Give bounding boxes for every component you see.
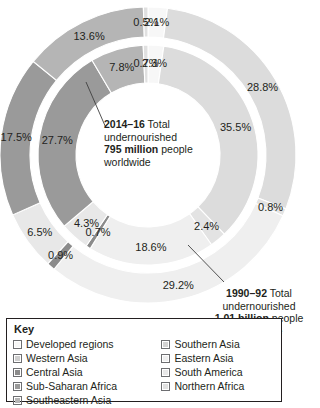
outer-ring-slice-label: 29.2% — [163, 279, 194, 291]
outer-ring-slice-label: 0.8% — [258, 201, 283, 213]
center-period: 2014–16 — [104, 118, 145, 130]
inner-ring-slice-label: 35.5% — [220, 121, 251, 133]
legend-swatch — [161, 354, 170, 363]
legend-item-label: Southern Asia — [174, 339, 239, 350]
legend-item-sub-saharan-africa[interactable]: Sub-Saharan Africa — [13, 380, 157, 393]
legend-swatch — [13, 340, 22, 349]
legend-item-label: Developed regions — [26, 339, 114, 350]
legend-item-label: Sub-Saharan Africa — [26, 381, 117, 392]
center-line2: undernourished — [104, 131, 177, 143]
legend-item-eastern-asia[interactable]: Eastern Asia — [161, 352, 275, 365]
legend-item-south-america[interactable]: South America — [161, 366, 275, 379]
center-line1-rest: Total — [145, 118, 170, 130]
legend-item-label: Northern Africa — [174, 381, 244, 392]
inner-ring-slice-label: 4.3% — [74, 217, 99, 229]
outer-period: 1990–92 — [226, 287, 267, 299]
legend-item-label: Eastern Asia — [174, 353, 233, 364]
outer-ring-slice-label: 6.5% — [27, 226, 52, 238]
legend-item-northern-africa[interactable]: Northern Africa — [161, 380, 275, 393]
outer-line1-rest: Total — [267, 287, 292, 299]
legend-column-right: Southern AsiaEastern AsiaSouth AmericaNo… — [161, 338, 275, 407]
center-annotation: 2014–16 Total undernourished 795 million… — [104, 118, 208, 168]
outer-ring-slice-label: 0.9% — [48, 249, 73, 261]
outer-ring-slice-label: 28.8% — [247, 81, 278, 93]
legend-swatch — [13, 354, 22, 363]
inner-ring-slice-label: 2.4% — [194, 220, 219, 232]
outer-ring-slice-label: 17.5% — [1, 131, 32, 143]
center-line4: worldwide — [104, 156, 151, 168]
legend-item-label: Southeastern Asia — [26, 395, 111, 406]
legend-swatch — [161, 340, 170, 349]
center-line3-rest: people — [158, 143, 192, 155]
legend-item-developed-regions[interactable]: Developed regions — [13, 338, 157, 351]
legend-swatch — [161, 382, 170, 391]
legend-title: Key — [14, 323, 275, 335]
legend-column-left: Developed regionsWestern AsiaCentral Asi… — [13, 338, 157, 407]
inner-ring-slice-label: 27.7% — [42, 134, 73, 146]
legend-item-label: Western Asia — [26, 353, 88, 364]
legend-item-central-asia[interactable]: Central Asia — [13, 366, 157, 379]
legend-swatch — [161, 368, 170, 377]
inner-ring-slice-label: 7.8% — [109, 61, 134, 73]
inner-ring-slice-label: 18.6% — [135, 241, 166, 253]
outer-ring-slice-label: 0.5% — [133, 16, 158, 28]
legend-item-label: South America — [174, 367, 242, 378]
legend-item-southeastern-asia[interactable]: Southeastern Asia — [13, 394, 157, 407]
legend-swatch — [13, 396, 22, 405]
legend-item-label: Central Asia — [26, 367, 83, 378]
legend-item-western-asia[interactable]: Western Asia — [13, 352, 157, 365]
legend-swatch — [13, 368, 22, 377]
legend-key: Key Developed regionsWestern AsiaCentral… — [6, 318, 282, 402]
legend-item-southern-asia[interactable]: Southern Asia — [161, 338, 275, 351]
legend-swatch — [13, 382, 22, 391]
center-amount: 795 million — [104, 143, 158, 155]
outer-line2: undernourished — [223, 300, 296, 312]
outer-ring-slice-label: 13.6% — [73, 30, 104, 42]
inner-ring-slice-label: 0.7% — [133, 57, 158, 69]
